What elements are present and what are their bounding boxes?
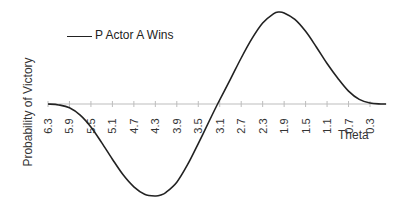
x-tick-label: 1.9 xyxy=(278,118,290,133)
x-tick-label: 1.5 xyxy=(300,118,312,133)
line-plot: 6.35.95.55.14.74.33.93.53.12.72.31.91.51… xyxy=(0,0,403,207)
x-tick-label: 6.3 xyxy=(42,118,54,133)
legend-label: P Actor A Wins xyxy=(95,28,173,42)
x-tick-label: 4.3 xyxy=(149,118,161,133)
x-tick-label: 5.9 xyxy=(63,118,75,133)
x-tick-label: 5.1 xyxy=(106,118,118,133)
x-tick-label: 3.1 xyxy=(214,118,226,133)
x-axis-label: Theta xyxy=(338,128,369,142)
y-axis-label: Probability of Victory xyxy=(21,57,35,166)
x-tick-label: 2.7 xyxy=(235,118,247,133)
x-tick-label: 3.9 xyxy=(171,118,183,133)
legend-line-swatch xyxy=(67,36,92,37)
chart-area: 6.35.95.55.14.74.33.93.53.12.72.31.91.51… xyxy=(0,0,403,207)
x-tick-label: 1.1 xyxy=(321,118,333,133)
x-tick-label: 2.3 xyxy=(257,118,269,133)
x-tick-label: 3.5 xyxy=(192,118,204,133)
x-tick-label: 4.7 xyxy=(128,118,140,133)
